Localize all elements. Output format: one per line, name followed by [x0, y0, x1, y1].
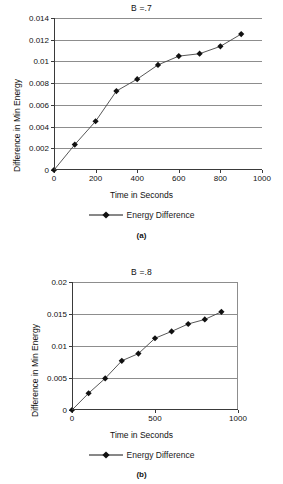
x-axis-tick-label: 600	[172, 174, 185, 183]
chart-title-a: B =.7	[0, 3, 283, 13]
data-point-marker	[169, 328, 175, 334]
y-axis-line-b	[72, 282, 73, 410]
data-point-marker	[238, 31, 244, 37]
x-axis-tick	[238, 410, 239, 413]
data-point-marker	[134, 76, 140, 82]
figure-caption-a: (a)	[0, 231, 283, 240]
x-axis-tick	[262, 170, 263, 173]
x-axis-tick	[179, 170, 180, 173]
legend-marker-diamond-icon	[89, 210, 123, 220]
y-axis-tick-label: 0.01	[0, 57, 49, 66]
x-axis-tick	[96, 170, 97, 173]
x-axis-tick-label: 800	[214, 174, 227, 183]
y-axis-tick-label: 0	[7, 406, 67, 415]
figure-b: B =.8 Difference in Min Energy 00.0050.0…	[0, 242, 283, 484]
x-axis-tick-label: 200	[89, 174, 102, 183]
data-point-marker	[217, 43, 223, 49]
legend-label-a: Energy Difference	[127, 210, 195, 220]
data-point-marker	[155, 62, 161, 68]
series-polyline	[54, 34, 241, 170]
x-axis-title-b: Time in Seconds	[0, 430, 283, 440]
y-axis-title-b: Difference in Min Energy	[30, 324, 40, 417]
x-axis-tick-label: 1000	[253, 174, 271, 183]
y-axis-tick-label: 0.002	[0, 144, 49, 153]
x-axis-title-a: Time in Seconds	[0, 190, 283, 200]
x-axis-tick	[155, 410, 156, 413]
x-axis-line-b	[72, 409, 238, 410]
data-point-marker	[202, 316, 208, 322]
series-line-a	[54, 18, 262, 170]
y-axis-tick-label: 0.01	[7, 342, 67, 351]
series-line-b	[72, 282, 238, 410]
x-axis-tick-label: 500	[148, 414, 161, 423]
legend-b: Energy Difference	[0, 450, 283, 460]
y-axis-line-a	[54, 18, 55, 170]
plot-right-border-b	[237, 282, 238, 410]
y-axis-tick-label: 0.006	[0, 100, 49, 109]
y-axis-tick-label: 0.014	[0, 14, 49, 23]
x-axis-tick-label: 400	[131, 174, 144, 183]
x-axis-tick-label: 0	[52, 174, 56, 183]
y-axis-tick-label: 0.008	[0, 79, 49, 88]
plot-area-b: 00.0050.010.0150.0205001000	[72, 282, 238, 410]
y-axis-tick-label: 0	[0, 166, 49, 175]
x-axis-line-a	[54, 169, 262, 170]
data-point-marker	[176, 53, 182, 59]
data-point-marker	[218, 309, 224, 315]
y-axis-tick-label: 0.02	[7, 278, 67, 287]
y-axis-tick-label: 0.015	[7, 310, 67, 319]
legend-a: Energy Difference	[0, 210, 283, 220]
data-point-marker	[185, 321, 191, 327]
data-point-marker	[113, 88, 119, 94]
figure-a: B =.7 Difference in Min Energy 00.0020.0…	[0, 0, 283, 242]
x-axis-tick	[220, 170, 221, 173]
x-axis-tick-label: 0	[70, 414, 74, 423]
series-polyline	[72, 312, 221, 410]
y-axis-tick-label: 0.012	[0, 35, 49, 44]
legend-label-b: Energy Difference	[127, 450, 195, 460]
chart-title-b: B =.8	[0, 267, 283, 277]
y-axis-tick-label: 0.004	[0, 122, 49, 131]
x-axis-tick-label: 1000	[229, 414, 247, 423]
figure-caption-b: (b)	[0, 470, 283, 479]
plot-area-a: 00.0020.0040.0060.0080.010.0120.01402004…	[54, 18, 262, 170]
x-axis-tick	[137, 170, 138, 173]
y-axis-tick-label: 0.005	[7, 374, 67, 383]
legend-marker-diamond-icon	[89, 450, 123, 460]
data-point-marker	[197, 51, 203, 57]
